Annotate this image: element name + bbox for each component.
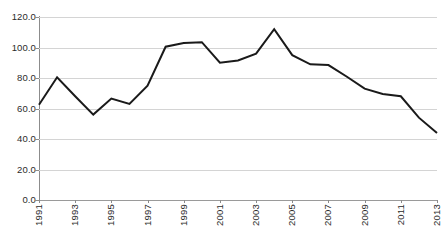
x-tick-label: 2001 bbox=[215, 204, 225, 226]
x-tick-label: 1993 bbox=[70, 204, 80, 226]
x-tick-label: 1995 bbox=[106, 204, 116, 226]
x-tick-mark bbox=[401, 200, 402, 203]
x-tick-mark bbox=[148, 200, 149, 203]
x-tick-label: 1999 bbox=[179, 204, 189, 226]
x-tick-label: 1997 bbox=[143, 204, 153, 226]
x-tick-label: 2005 bbox=[287, 204, 297, 226]
x-tick-label: 2003 bbox=[251, 204, 261, 226]
x-tick-label: 2011 bbox=[396, 204, 406, 225]
x-tick-mark bbox=[292, 200, 293, 203]
x-tick-mark bbox=[111, 200, 112, 203]
x-tick-label: 2007 bbox=[323, 204, 333, 226]
x-tick-mark bbox=[328, 200, 329, 203]
line-chart: 0.020.040.060.080.0100.0120.0 1991199319… bbox=[0, 0, 448, 252]
x-tick-mark bbox=[220, 200, 221, 203]
x-tick-label: 1991 bbox=[34, 204, 44, 226]
x-tick-mark bbox=[75, 200, 76, 203]
x-tick-label: 2009 bbox=[360, 204, 370, 226]
x-axis-labels: 1991199319951997199920012003200520072009… bbox=[0, 0, 448, 252]
x-tick-mark bbox=[39, 200, 40, 203]
x-tick-mark bbox=[437, 200, 438, 203]
x-tick-mark bbox=[184, 200, 185, 203]
x-tick-mark bbox=[256, 200, 257, 203]
x-tick-mark bbox=[365, 200, 366, 203]
x-tick-label: 2013 bbox=[432, 204, 442, 226]
